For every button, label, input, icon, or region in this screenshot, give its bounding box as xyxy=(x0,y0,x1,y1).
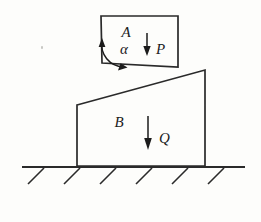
force-q-arrowhead xyxy=(144,138,152,150)
block-a-label: A xyxy=(120,24,131,40)
figure-canvas: A α P B Q xyxy=(0,0,261,222)
block-b-label: B xyxy=(114,114,123,130)
angle-alpha-label: α xyxy=(120,41,129,57)
block-a-outline xyxy=(101,16,178,67)
hatch-mark xyxy=(100,168,116,184)
angle-alpha-arrowhead-top xyxy=(99,38,106,47)
hatch-mark xyxy=(64,168,80,184)
hatch-mark xyxy=(136,168,152,184)
hatch-mark xyxy=(208,168,224,184)
force-q-label: Q xyxy=(159,130,170,146)
scan-speck xyxy=(41,46,43,49)
ground-hatching xyxy=(28,168,224,184)
force-p-arrowhead xyxy=(143,46,150,56)
hatch-mark xyxy=(28,168,44,184)
force-p-label: P xyxy=(155,41,165,57)
hatch-mark xyxy=(172,168,188,184)
block-b-outline xyxy=(77,70,205,166)
mechanics-figure: A α P B Q xyxy=(0,0,261,222)
